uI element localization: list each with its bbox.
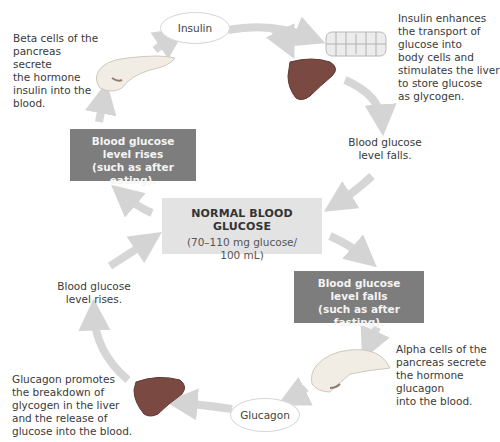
- center-range: (70–110 mg glucose/ 100 mL): [162, 236, 322, 262]
- arrow-icon: [94, 313, 128, 380]
- text-line: Blood glucose: [294, 277, 424, 290]
- insulin-label-text: Insulin: [178, 22, 212, 34]
- text-line: to store glucose: [398, 77, 500, 90]
- glucose-falls-stimulus-box: Blood glucose level falls (such as after…: [294, 271, 424, 323]
- text-line: pancreas secrete: [396, 356, 500, 369]
- text-line: Blood glucose: [70, 135, 196, 148]
- text-line: glucagon: [396, 382, 500, 395]
- glucose-rises-stimulus-box: Blood glucose level rises (such as after…: [70, 129, 196, 181]
- text-line: Blood glucose: [330, 136, 440, 149]
- pancreas-icon: [312, 350, 391, 392]
- alpha-cells-description: Alpha cells of the pancreas secrete the …: [396, 343, 500, 408]
- arrow-icon: [290, 388, 306, 399]
- body-cells-icon: [326, 32, 386, 56]
- text-line: pancreas secrete: [13, 45, 103, 71]
- text-line: Blood glucose: [44, 280, 144, 293]
- text-line: as glycogen.: [398, 90, 500, 103]
- insulin-hormone-label: Insulin: [160, 12, 230, 44]
- normal-blood-glucose-box: NORMAL BLOOD GLUCOSE (70–110 mg glucose/…: [162, 198, 322, 254]
- text-line: the hormone: [13, 71, 103, 84]
- arrow-icon: [368, 327, 377, 347]
- text-line: the breakdown of: [12, 386, 140, 399]
- liver-icon: [288, 59, 336, 100]
- text-line: Insulin enhances: [398, 12, 500, 25]
- text-line: glucose into: [398, 38, 500, 51]
- text-line: 100 mL): [162, 249, 322, 262]
- text-line: blood.: [13, 97, 103, 110]
- text-line: (such as after fasting).: [294, 303, 424, 329]
- arrow-icon: [330, 236, 366, 258]
- arrow-icon: [180, 403, 232, 409]
- liver-icon: [134, 377, 185, 416]
- text-line: the transport of: [398, 25, 500, 38]
- text-line: Alpha cells of the: [396, 343, 500, 356]
- text-line: glycogen in the liver: [12, 399, 140, 412]
- text-line: level falls.: [330, 149, 440, 162]
- text-line: into the blood.: [396, 395, 500, 408]
- text-line: (70–110 mg glucose/: [162, 236, 322, 249]
- glucose-falls-caption: Blood glucose level falls.: [330, 136, 440, 162]
- text-line: body cells and: [398, 51, 500, 64]
- arrow-icon: [110, 240, 150, 266]
- arrow-icon: [336, 176, 372, 204]
- text-line: level rises.: [44, 293, 144, 306]
- glucagon-label-text: Glucagon: [240, 409, 290, 421]
- text-line: and the release of: [12, 412, 140, 425]
- text-line: (such as after eating).: [70, 161, 196, 187]
- glucagon-hormone-label: Glucagon: [230, 398, 300, 432]
- glucagon-effect-description: Glucagon promotes the breakdown of glyco…: [12, 373, 140, 438]
- center-title: NORMAL BLOOD GLUCOSE: [162, 207, 322, 233]
- insulin-effect-description: Insulin enhances the transport of glucos…: [398, 12, 500, 103]
- text-line: stimulates the liver: [398, 64, 500, 77]
- beta-cells-description: Beta cells of the pancreas secrete the h…: [13, 32, 103, 110]
- text-line: insulin into the: [13, 84, 103, 97]
- pancreas-icon: [96, 56, 175, 91]
- text-line: Glucagon promotes: [12, 373, 140, 386]
- text-line: Beta cells of the: [13, 32, 103, 45]
- text-line: glucose into the blood.: [12, 425, 140, 438]
- text-line: level falls: [294, 290, 424, 303]
- text-line: the hormone: [396, 369, 500, 382]
- arrow-icon: [345, 80, 382, 122]
- glucose-rises-caption: Blood glucose level rises.: [44, 280, 144, 306]
- arrow-icon: [122, 194, 152, 213]
- text-line: level rises: [70, 148, 196, 161]
